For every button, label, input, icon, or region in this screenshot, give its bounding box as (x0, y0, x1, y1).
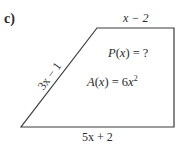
perimeter-formula: P(x) = ? (108, 47, 148, 60)
perimeter-func: P (108, 46, 116, 60)
area-rest: = 6 (109, 75, 129, 89)
area-formula: A(x) = 6x2 (87, 76, 138, 89)
perimeter-rest: = ? (130, 46, 149, 60)
area-func: A (87, 75, 95, 89)
area-exponent: 2 (134, 74, 138, 83)
area-var: x (99, 75, 105, 89)
top-side-label: x − 2 (123, 12, 148, 24)
bottom-side-label: 5x + 2 (82, 131, 113, 143)
bottom-side-expression: 5x + 2 (82, 130, 113, 144)
top-side-expression: x − 2 (123, 11, 148, 25)
problem-label: c) (4, 12, 15, 26)
perimeter-var: x (120, 46, 126, 60)
